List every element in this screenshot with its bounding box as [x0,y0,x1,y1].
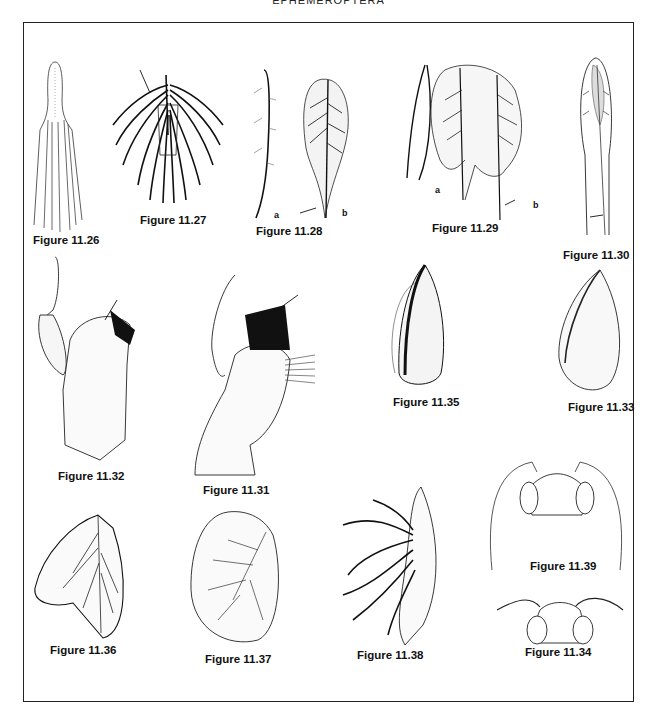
figure-11-35 [33,513,128,643]
double-lamella-illustration [33,513,128,643]
figure-11-28: a b [250,68,350,233]
figure-11-29: a b [405,60,545,230]
figure-caption: Figure 11.31 [203,484,269,496]
gill-lamellae-illustration [250,68,350,233]
gill-lamellae-illustration [405,60,545,230]
figure-11-34 [385,263,455,393]
part-label-a: a [435,185,440,195]
figure-caption: Figure 11.33 [568,401,634,413]
part-label-a: a [274,210,279,220]
gill-tuft-illustration [108,65,228,205]
figure-11-26 [30,60,90,235]
branched-gill-illustration [333,485,443,645]
figure-11-33 [555,268,625,398]
figure-caption: Figure 11.27 [140,214,206,226]
figure-caption: Figure 11.38 [357,649,423,661]
rounded-lamella-illustration [188,510,283,650]
running-head: EPHEMEROPTERA [0,0,657,6]
figure-11-31 [190,270,305,480]
figure-caption: Figure 11.34 [525,646,591,658]
figure-caption: Figure 11.32 [58,470,124,482]
figure-caption: Figure 11.30 [563,249,629,261]
figure-caption: Figure 11.37 [205,653,271,665]
figure-11-27 [108,65,228,205]
part-label-b: b [342,208,348,218]
maxilla-illustration [35,255,135,460]
oval-gill-illustration [555,268,625,398]
figure-caption: Figure 11.36 [50,644,116,656]
figure-caption: Figure 11.35 [393,396,459,408]
gill-plate-illustration [385,263,455,393]
figure-caption: Figure 11.26 [33,234,99,246]
figure-caption: Figure 11.29 [432,222,498,234]
figure-11-30 [575,55,627,240]
figure-11-32 [35,255,135,460]
figure-caption: Figure 11.28 [256,225,322,237]
gill-filaments-illustration [30,60,90,235]
part-label-b: b [533,200,539,210]
figure-11-36 [188,510,283,650]
maxilla-illustration [190,270,305,480]
figure-caption: Figure 11.39 [530,560,596,572]
forked-gill-illustration [575,55,627,240]
figure-11-37 [333,485,443,645]
